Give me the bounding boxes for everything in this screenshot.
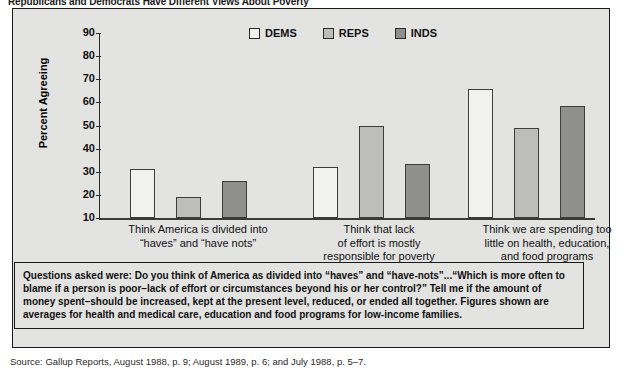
figure-title: Republicans and Democrats Have Different… [8,0,309,7]
plot-area: Percent Agreeing 908070605040302010 Thin… [13,9,611,259]
group-label-1: Think America is divided into “haves” an… [103,223,293,250]
bar-inds-group2 [405,164,430,218]
x-axis-line [99,218,595,220]
bar-inds-group3 [560,106,585,218]
bar-inds-group1 [222,181,247,218]
note-box: Questions asked were: Do you think of Am… [14,262,584,329]
group-label-2: Think that lack of effort is mostly resp… [291,223,467,264]
bar-dems-group2 [313,167,338,218]
bar-reps-group2 [359,126,384,219]
bar-dems-group1 [130,169,155,218]
bar-reps-group3 [514,128,539,218]
y-axis-tick-mark [96,218,101,219]
bars-layer [13,9,611,218]
bar-reps-group1 [176,197,201,218]
bar-dems-group3 [468,89,493,219]
group-label-3: Think we are spending too little on heal… [453,223,624,264]
source-line: Source: Gallup Reports, August 1988, p. … [10,356,366,367]
